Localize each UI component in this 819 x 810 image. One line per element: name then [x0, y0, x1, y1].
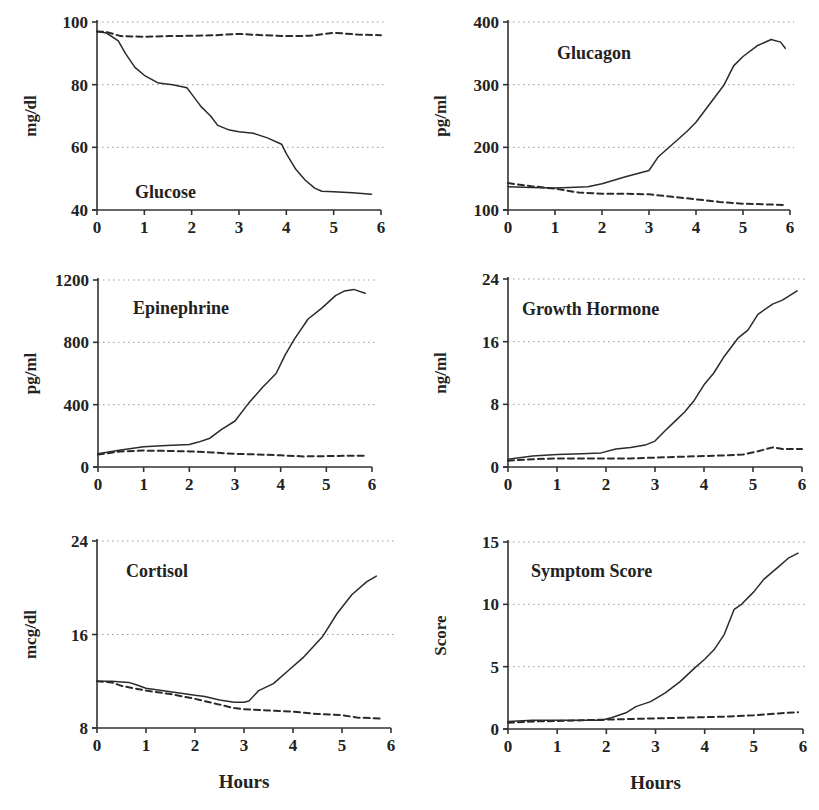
x-tick-label: 6	[368, 475, 377, 494]
x-tick-label: 5	[750, 737, 759, 756]
x-tick-label: 2	[598, 218, 607, 237]
y-tick-label: 0	[81, 458, 90, 477]
x-tick-label: 3	[240, 736, 249, 755]
panel-cortisol: 816240123456mcg/dlCortisolHours	[21, 532, 395, 792]
x-tick-label: 4	[700, 475, 709, 494]
x-tick-label: 1	[142, 736, 151, 755]
panel-symptom-score: 0510150123456ScoreSymptom ScoreHours	[431, 533, 807, 793]
x-axis-title: Hours	[219, 771, 270, 792]
x-axis-title: Hours	[630, 772, 681, 793]
x-tick-label: 1	[139, 475, 148, 494]
y-tick-label: 800	[64, 333, 90, 352]
x-tick-label: 4	[282, 218, 291, 237]
y-tick-label: 16	[482, 333, 499, 352]
panel-title: Glucagon	[557, 43, 631, 63]
x-tick-label: 3	[231, 475, 240, 494]
x-tick-label: 3	[235, 218, 244, 237]
y-tick-label: 0	[491, 458, 500, 477]
y-tick-label: 200	[474, 138, 500, 157]
x-tick-label: 4	[276, 475, 285, 494]
y-axis-label: mcg/dl	[21, 610, 40, 659]
panel-glucose: 4060801000123456mg/dlGlucose	[21, 13, 385, 237]
panel-title: Cortisol	[126, 561, 188, 581]
panel-epinephrine: 040080012000123456pg/mlEpinephrine	[21, 271, 376, 494]
x-tick-label: 4	[700, 737, 709, 756]
y-tick-label: 15	[482, 533, 499, 552]
x-tick-label: 6	[799, 737, 808, 756]
x-tick-label: 3	[651, 475, 660, 494]
x-tick-label: 6	[786, 218, 795, 237]
figure-canvas: 4060801000123456mg/dlGlucose100200300400…	[0, 0, 819, 810]
y-tick-label: 400	[64, 396, 90, 415]
x-tick-label: 2	[185, 475, 194, 494]
x-tick-label: 1	[551, 218, 560, 237]
x-tick-label: 5	[739, 218, 748, 237]
x-tick-label: 6	[377, 218, 386, 237]
series-solid-line	[508, 40, 785, 189]
x-tick-label: 6	[387, 736, 396, 755]
y-tick-label: 80	[71, 76, 88, 95]
series-dashed-line	[508, 712, 798, 723]
y-tick-label: 8	[491, 395, 500, 414]
x-tick-label: 4	[289, 736, 298, 755]
y-tick-label: 24	[482, 270, 500, 289]
series-solid-line	[97, 576, 376, 702]
y-axis-label: pg/ml	[21, 352, 40, 394]
y-tick-label: 1200	[55, 271, 89, 290]
x-tick-label: 6	[798, 475, 807, 494]
x-tick-label: 0	[504, 475, 513, 494]
x-tick-label: 3	[651, 737, 660, 756]
y-tick-label: 16	[71, 626, 88, 645]
y-tick-label: 8	[80, 719, 89, 738]
x-tick-label: 1	[553, 737, 562, 756]
x-tick-label: 0	[93, 218, 102, 237]
x-tick-label: 1	[553, 475, 562, 494]
x-tick-label: 4	[692, 218, 701, 237]
y-tick-label: 400	[474, 13, 500, 32]
panel-glucagon: 1002003004000123456pg/mlGlucagon	[431, 13, 794, 237]
series-dashed-line	[97, 681, 381, 718]
x-tick-label: 0	[504, 218, 513, 237]
series-solid-line	[97, 31, 372, 194]
x-tick-label: 5	[322, 475, 331, 494]
x-tick-label: 2	[187, 218, 196, 237]
y-tick-label: 10	[482, 595, 499, 614]
x-tick-label: 0	[93, 736, 102, 755]
panel-growth-hormone: 0816240123456ng/mlGrowth Hormone	[431, 270, 806, 494]
x-tick-label: 0	[94, 475, 103, 494]
y-axis-label: pg/ml	[431, 95, 450, 137]
y-tick-label: 60	[71, 138, 88, 157]
series-dashed-line	[97, 31, 381, 36]
panel-title: Glucose	[135, 182, 196, 202]
y-axis-label: ng/ml	[431, 352, 450, 394]
y-tick-label: 24	[71, 532, 89, 551]
y-axis-label: mg/dl	[21, 95, 40, 137]
y-axis-label: Score	[431, 615, 450, 656]
y-tick-label: 100	[474, 201, 500, 220]
y-tick-label: 0	[491, 720, 500, 739]
x-tick-label: 2	[602, 737, 611, 756]
y-tick-label: 100	[63, 13, 89, 32]
x-tick-label: 5	[329, 218, 338, 237]
series-dashed-line	[98, 451, 367, 457]
x-tick-label: 2	[191, 736, 200, 755]
y-tick-label: 300	[474, 76, 500, 95]
y-tick-label: 40	[71, 201, 88, 220]
y-tick-label: 5	[491, 658, 500, 677]
x-tick-label: 3	[645, 218, 654, 237]
panel-title: Growth Hormone	[522, 299, 659, 319]
x-tick-label: 1	[140, 218, 149, 237]
x-tick-label: 0	[504, 737, 513, 756]
series-dashed-line	[508, 183, 785, 205]
x-tick-label: 5	[338, 736, 347, 755]
x-tick-label: 2	[602, 475, 611, 494]
x-tick-label: 5	[749, 475, 758, 494]
panel-title: Epinephrine	[133, 298, 229, 318]
panel-title: Symptom Score	[531, 561, 652, 581]
